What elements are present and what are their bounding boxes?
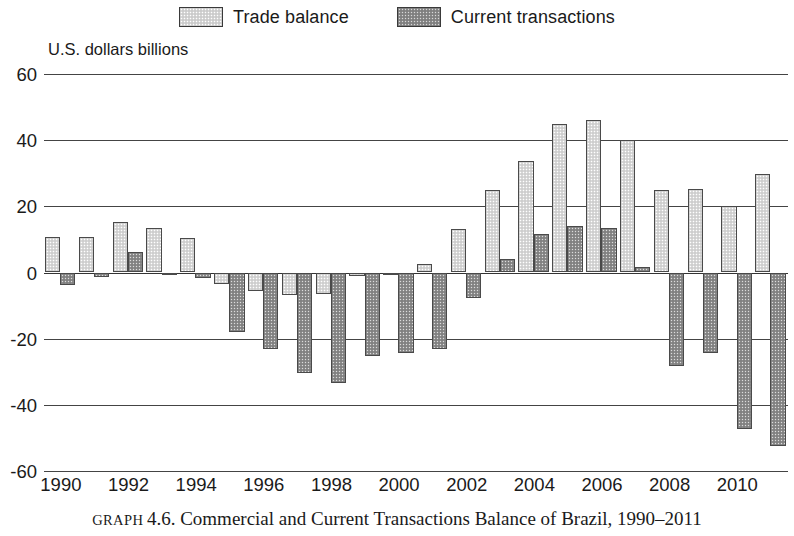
bar-trade-balance-2000 — [383, 273, 398, 275]
bar-trade-balance-2009 — [688, 189, 703, 273]
bar-current-transactions-2006 — [601, 228, 616, 273]
bar-group-1990 — [44, 74, 78, 471]
bar-current-transactions-1999 — [365, 273, 380, 357]
bar-current-transactions-1996 — [263, 273, 278, 350]
bar-group-1991 — [78, 74, 112, 471]
bar-group-1996 — [247, 74, 281, 471]
x-axis-tick-2008: 2008 — [649, 474, 690, 496]
legend-label-trade-balance: Trade balance — [233, 7, 349, 28]
y-axis-title: U.S. dollars billions — [48, 40, 188, 59]
legend-swatch-current-transactions — [397, 7, 441, 27]
gridline--60: -60 — [44, 471, 788, 472]
bar-trade-balance-1992 — [113, 222, 128, 272]
bar-trade-balance-2008 — [654, 190, 669, 272]
bar-current-transactions-1992 — [128, 252, 143, 272]
bar-group-1992 — [112, 74, 146, 471]
x-axis-tick-2004: 2004 — [514, 474, 555, 496]
legend-item-current-transactions: Current transactions — [397, 7, 615, 28]
bar-group-2002 — [450, 74, 484, 471]
bar-trade-balance-2003 — [485, 190, 500, 272]
bar-trade-balance-1991 — [79, 237, 94, 272]
legend-item-trade-balance: Trade balance — [179, 7, 349, 28]
bar-trade-balance-2004 — [518, 161, 533, 273]
bar-current-transactions-2007 — [635, 267, 650, 272]
bar-trade-balance-1993 — [146, 228, 161, 272]
bar-series-container — [44, 74, 788, 471]
bar-current-transactions-2001 — [432, 273, 447, 350]
bar-trade-balance-2001 — [417, 264, 432, 273]
x-axis-tick-2000: 2000 — [379, 474, 420, 496]
figure-caption: GRAPH 4.6. Commercial and Current Transa… — [0, 508, 794, 530]
bar-group-1999 — [348, 74, 382, 471]
bar-current-transactions-1990 — [60, 273, 75, 286]
y-axis-tick--40: -40 — [10, 395, 44, 417]
bar-group-2001 — [416, 74, 450, 471]
bar-trade-balance-1996 — [248, 273, 263, 292]
bar-group-2011 — [754, 74, 788, 471]
x-axis-tick-1996: 1996 — [243, 474, 284, 496]
bar-current-transactions-1994 — [195, 273, 210, 279]
bar-current-transactions-2009 — [703, 273, 718, 353]
bar-current-transactions-2005 — [567, 226, 582, 272]
y-axis-tick-0: 0 — [27, 263, 44, 285]
legend-swatch-trade-balance — [179, 7, 223, 27]
x-axis-tick-2010: 2010 — [717, 474, 758, 496]
bar-group-1993 — [145, 74, 179, 471]
bar-group-2009 — [687, 74, 721, 471]
bar-trade-balance-1998 — [316, 273, 331, 295]
x-axis-tick-2006: 2006 — [581, 474, 622, 496]
bar-current-transactions-1991 — [94, 273, 109, 278]
bar-current-transactions-1993 — [162, 273, 177, 275]
bar-current-transactions-2011 — [770, 273, 785, 447]
y-axis-tick-20: 20 — [16, 196, 44, 218]
bar-trade-balance-1990 — [45, 237, 60, 273]
x-axis-tick-1992: 1992 — [108, 474, 149, 496]
bar-group-2000 — [382, 74, 416, 471]
bar-current-transactions-2000 — [398, 273, 413, 353]
y-axis-tick-40: 40 — [16, 130, 44, 152]
x-axis-tick-1990: 1990 — [40, 474, 81, 496]
bar-group-2008 — [653, 74, 687, 471]
x-axis-labels: 1990199219941996199820002002200420062008… — [44, 474, 788, 500]
bar-trade-balance-1999 — [349, 273, 364, 277]
chart-legend: Trade balance Current transactions — [0, 4, 794, 30]
y-axis-tick-60: 60 — [16, 64, 44, 86]
bar-trade-balance-2011 — [755, 174, 770, 273]
bar-current-transactions-1995 — [229, 273, 244, 333]
y-axis-tick--60: -60 — [10, 461, 44, 483]
bar-group-2010 — [720, 74, 754, 471]
y-axis-tick--20: -20 — [10, 329, 44, 351]
bar-group-2006 — [585, 74, 619, 471]
bar-group-1995 — [213, 74, 247, 471]
x-axis-tick-1994: 1994 — [176, 474, 217, 496]
bar-trade-balance-1997 — [282, 273, 297, 295]
x-axis-tick-2002: 2002 — [446, 474, 487, 496]
bar-trade-balance-2010 — [721, 206, 736, 273]
bar-trade-balance-1994 — [180, 238, 195, 273]
caption-label: GRAPH — [92, 512, 143, 528]
bar-trade-balance-2006 — [586, 120, 601, 273]
bar-group-2003 — [484, 74, 518, 471]
bar-group-2004 — [517, 74, 551, 471]
bar-group-1998 — [315, 74, 349, 471]
bar-group-1997 — [281, 74, 315, 471]
bar-current-transactions-2010 — [737, 273, 752, 429]
bar-current-transactions-2002 — [466, 273, 481, 298]
bar-group-2005 — [551, 74, 585, 471]
bar-current-transactions-2004 — [534, 234, 549, 273]
bar-trade-balance-2007 — [620, 140, 635, 272]
bar-current-transactions-1997 — [297, 273, 312, 374]
bar-group-1994 — [179, 74, 213, 471]
plot-area: 6040200-20-40-60 — [44, 74, 788, 471]
bar-current-transactions-1998 — [331, 273, 346, 383]
bar-current-transactions-2008 — [669, 273, 684, 366]
bar-trade-balance-2005 — [552, 124, 567, 273]
bar-trade-balance-1995 — [214, 273, 229, 285]
bar-group-2007 — [619, 74, 653, 471]
x-axis-tick-1998: 1998 — [311, 474, 352, 496]
legend-label-current-transactions: Current transactions — [451, 7, 615, 28]
bar-current-transactions-2003 — [500, 259, 515, 273]
bar-trade-balance-2002 — [451, 229, 466, 273]
caption-text: Commercial and Current Transactions Bala… — [180, 508, 702, 529]
caption-number: 4.6. — [147, 508, 176, 529]
